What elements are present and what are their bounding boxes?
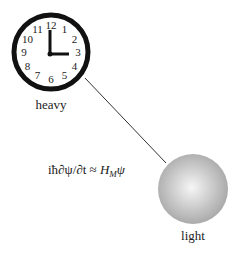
- clock-number: 5: [62, 69, 68, 81]
- clock-number: 1: [62, 23, 68, 35]
- clock-number: 9: [21, 46, 27, 58]
- equation-psi: ψ: [117, 162, 125, 177]
- clock-icon: 121234567891011: [14, 15, 88, 89]
- diagram-canvas: 121234567891011: [0, 0, 241, 254]
- equation-relation: ≈: [90, 162, 97, 177]
- connector-line: [85, 78, 166, 163]
- clock-number: 12: [46, 19, 57, 31]
- equation-hamiltonian: H: [100, 162, 109, 177]
- equation: iħ∂ψ/∂t ≈ HMψ: [48, 162, 125, 179]
- equation-subscript: M: [109, 169, 117, 179]
- clock-number: 3: [75, 46, 81, 58]
- clock-number: 7: [35, 69, 41, 81]
- heavy-label: heavy: [35, 97, 66, 113]
- sphere-icon: [158, 154, 228, 224]
- clock-number: 6: [48, 73, 54, 85]
- equation-lhs: iħ∂ψ/∂t: [48, 162, 86, 177]
- clock-number: 2: [72, 33, 78, 45]
- clock-number: 4: [72, 60, 78, 72]
- clock-number: 11: [32, 23, 43, 35]
- light-label: light: [181, 228, 205, 244]
- clock-number: 8: [25, 60, 31, 72]
